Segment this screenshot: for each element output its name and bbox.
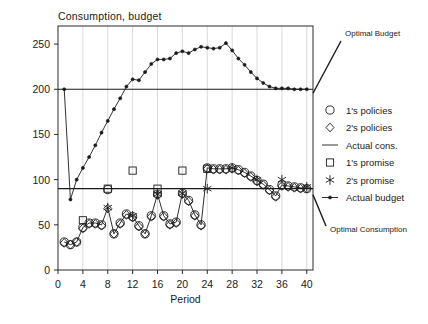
marker-actual-budget [75,178,78,181]
marker-actual-budget [237,57,240,60]
legend-glyph---s-policies [326,106,334,114]
marker-actual-budget [218,46,221,49]
series-line-actual-budget [64,43,307,199]
marker-actual-budget [175,52,178,55]
marker-actual-budget [262,81,265,84]
ytick-label-100: 100 [32,174,50,186]
marker-actual-budget [150,62,153,65]
marker-actual-budget [243,63,246,66]
xtick-label-24: 24 [201,278,213,290]
marker-actual-budget [88,155,91,158]
legend-label-4: 2's promise [346,175,394,186]
ytick-label-50: 50 [38,219,50,231]
marker-actual-budget [69,198,72,201]
marker-actual-budget [181,50,184,53]
marker-actual-budget [274,87,277,90]
ytick-label-0: 0 [44,264,50,276]
xtick-label-32: 32 [251,278,263,290]
marker-actual-budget [280,87,283,90]
marker-actual-budget [137,79,140,82]
marker-actual-budget [268,85,271,88]
ytick-label-200: 200 [32,83,50,95]
legend-label-2: Actual cons. [346,140,398,151]
marker-actual-budget [206,46,209,49]
xtick-label-16: 16 [152,278,164,290]
marker-actual-budget [193,48,196,51]
marker-actual-budget [106,119,109,122]
marker-actual-budget [231,49,234,52]
xtick-label-40: 40 [301,278,313,290]
marker-actual-budget [112,108,115,111]
marker-actual-budget [81,166,84,169]
marker-actual-budget [162,58,165,61]
legend-glyph---s-policies [326,123,334,132]
xtick-label-4: 4 [80,278,86,290]
marker-actual-budget [255,77,258,80]
ytick-label-250: 250 [32,38,50,50]
annotation-optimal-consumption: Optimal Consumption [330,225,407,234]
marker-actual-budget [131,78,134,81]
marker-actual-budget [293,88,296,91]
leader-optimal-budget [313,41,341,93]
marker-actual-budget [119,97,122,100]
xtick-label-8: 8 [105,278,111,290]
leader-optimal-consumption [313,195,326,226]
marker-actual-budget [212,47,215,50]
marker-actual-budget [199,45,202,48]
series-line-actual-cons- [64,168,307,245]
chart-title: Consumption, budget [58,10,162,22]
legend-label-3: 1's promise [346,157,394,168]
xtick-label-12: 12 [127,278,139,290]
marker-actual-budget [125,85,128,88]
marker-actual-budget [299,88,302,91]
marker-actual-budget [305,88,308,91]
marker-actual-budget [187,52,190,55]
marker-actual-budget [249,71,252,74]
xtick-label-36: 36 [276,278,288,290]
marker-actual-budget [168,57,171,60]
plot-frame [58,26,313,270]
marker-actual-budget [100,131,103,134]
xtick-label-28: 28 [226,278,238,290]
chart-figure: Consumption, budget050100150200250048121… [0,0,428,324]
consumption-budget-chart: Consumption, budget050100150200250048121… [0,0,428,324]
marker-actual-budget [156,58,159,61]
marker-actual-budget [224,42,227,45]
ytick-label-150: 150 [32,128,50,140]
xtick-label-0: 0 [55,278,61,290]
marker-actual-budget [287,87,290,90]
marker-actual-budget [144,71,147,74]
xtick-label-20: 20 [177,278,189,290]
legend-glyph---s-promise [326,159,333,166]
marker-actual-budget [94,144,97,147]
legend-glyph-actual-budget-dot [328,196,331,199]
marker-actual-budget [63,88,66,91]
annotation-optimal-budget: Optimal Budget [345,29,401,38]
legend-label-5: Actual budget [346,192,404,203]
x-axis-label: Period [170,293,201,305]
legend-label-0: 1's policies [346,105,392,116]
legend-label-1: 2's policies [346,122,392,133]
